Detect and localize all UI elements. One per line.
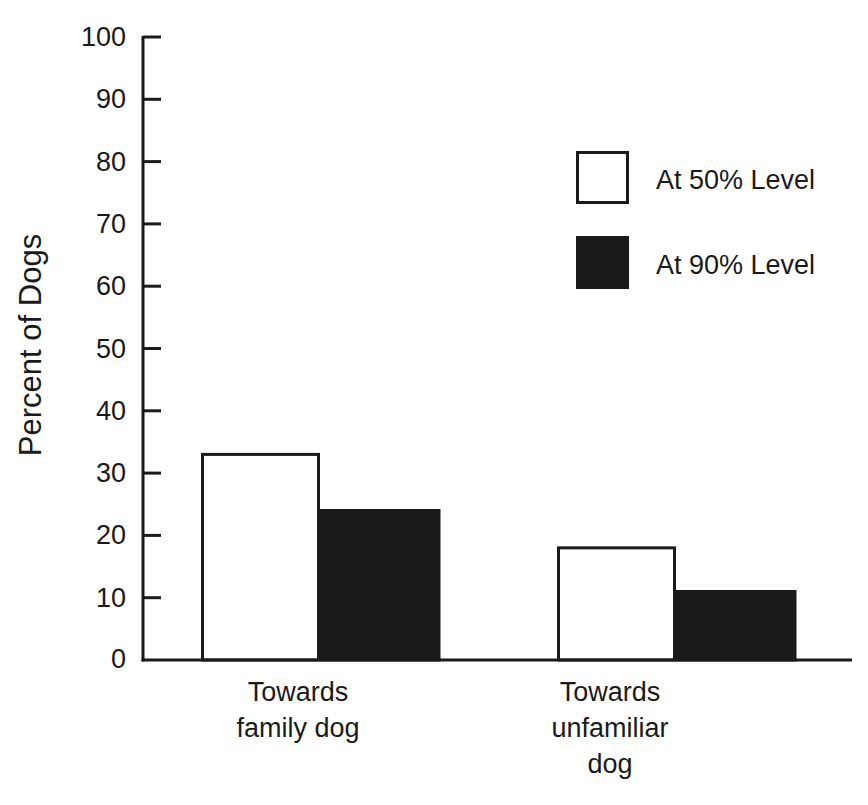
y-tick-label: 60 bbox=[66, 271, 126, 301]
bar-90-level-unfamiliar-dog bbox=[678, 591, 796, 660]
legend-label-90-level: At 90% Level bbox=[656, 250, 815, 280]
y-tick-label: 90 bbox=[66, 84, 126, 114]
bar-50-level-family-dog bbox=[203, 454, 319, 660]
bar-50-level-unfamiliar-dog bbox=[559, 548, 675, 660]
y-tick-label: 20 bbox=[66, 520, 126, 550]
legend-label-50-level: At 50% Level bbox=[656, 165, 815, 195]
bar-90-level-family-dog bbox=[322, 510, 440, 660]
plot-area bbox=[0, 0, 868, 805]
x-category-label-unfamiliar-dog: Towards unfamiliar dog bbox=[490, 674, 730, 782]
y-tick-label: 70 bbox=[66, 209, 126, 239]
bar-chart: Percent of Dogs 0102030405060708090100 T… bbox=[0, 0, 868, 805]
y-tick-label: 0 bbox=[66, 644, 126, 674]
y-tick-label: 10 bbox=[66, 583, 126, 613]
y-tick-label: 40 bbox=[66, 396, 126, 426]
legend-swatch-50-level bbox=[576, 151, 629, 204]
y-axis-title: Percent of Dogs bbox=[13, 234, 49, 456]
legend-swatch-90-level bbox=[576, 236, 629, 289]
x-category-label-family-dog: Towards family dog bbox=[178, 674, 418, 746]
y-tick-label: 50 bbox=[66, 334, 126, 364]
y-tick-label: 30 bbox=[66, 458, 126, 488]
y-tick-label: 80 bbox=[66, 147, 126, 177]
y-tick-label: 100 bbox=[66, 22, 126, 52]
